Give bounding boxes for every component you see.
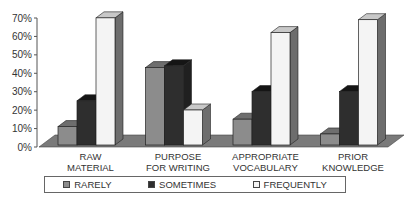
category-label: PRIOR [338, 151, 368, 162]
bar-frequently-2 [271, 27, 298, 145]
y-tick-label: 70% [12, 13, 32, 24]
legend-label: SOMETIMES [159, 179, 216, 190]
bar-frequently-0 [96, 12, 123, 145]
legend-label: RARELY [74, 179, 111, 190]
legend-swatch-icon [63, 181, 70, 188]
y-tick-label: 20% [12, 105, 32, 116]
legend-item-sometimes: SOMETIMES [148, 179, 216, 190]
legend-label: FREQUENTLY [264, 179, 327, 190]
category-label: RAW [80, 151, 102, 162]
bar-chart: 0%10%20%30%40%50%60%70%RAWMATERIALPURPOS… [0, 0, 408, 176]
legend-swatch-icon [253, 181, 260, 188]
category-label: KNOWLEDGE [322, 162, 384, 173]
category-label: FOR WRITING [146, 162, 210, 173]
bar-frequently-3 [359, 14, 386, 145]
legend-item-frequently: FREQUENTLY [253, 179, 327, 190]
y-tick-label: 10% [12, 123, 32, 134]
bar-frequently-1 [184, 104, 211, 145]
y-tick-label: 60% [12, 31, 32, 42]
y-tick-label: 50% [12, 49, 32, 60]
category-label: VOCABULARY [233, 162, 298, 173]
y-tick-label: 40% [12, 68, 32, 79]
y-tick-label: 0% [18, 142, 33, 153]
category-label: APPROPRIATE [232, 151, 299, 162]
y-tick-label: 30% [12, 86, 32, 97]
category-label: MATERIAL [67, 162, 114, 173]
legend: RARELYSOMETIMESFREQUENTLY [44, 176, 346, 193]
legend-swatch-icon [148, 181, 155, 188]
legend-item-rarely: RARELY [63, 179, 111, 190]
category-label: PURPOSE [155, 151, 201, 162]
